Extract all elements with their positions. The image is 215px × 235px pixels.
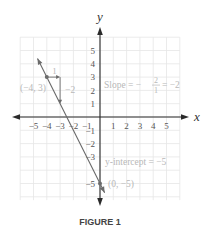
x-tick-label: 3 [138, 121, 143, 131]
point-label: (0, −5) [108, 179, 134, 190]
point-marker [98, 182, 102, 186]
x-axis-label: x [193, 109, 200, 124]
points: (−4, 3)(0, −5) [20, 75, 134, 189]
x-tick-label: 2 [124, 121, 129, 131]
y-axis-label: y [95, 9, 103, 24]
x-axis-arrow-left [12, 114, 20, 120]
point-label: (−4, 3) [20, 83, 46, 94]
y-tick-label: 1 [91, 99, 96, 109]
y-tick-label: −1 [85, 126, 95, 136]
y-tick-label: −2 [85, 139, 95, 149]
y-tick-label: 3 [91, 72, 96, 82]
y-axis-arrow-up [97, 27, 103, 35]
rise-label: −2 [65, 85, 75, 95]
y-intercept-annotation: y-intercept = −5 [105, 157, 167, 167]
slope-fraction-numerator: 2 [154, 76, 158, 85]
x-tick-label: 4 [151, 121, 156, 131]
y-tick-label: 4 [91, 59, 96, 69]
slope-annotation-prefix: Slope = − [104, 80, 141, 90]
x-tick-label: −3 [55, 121, 65, 131]
point-marker [45, 75, 49, 79]
x-axis-arrow-right [181, 114, 189, 120]
slope-fraction-denominator: 1 [154, 86, 158, 95]
axes: x y [12, 9, 200, 206]
x-tick-label: −5 [29, 121, 39, 131]
y-tick-label: −5 [85, 179, 95, 189]
slope-annotation-suffix: = −2 [162, 80, 180, 90]
figure-caption: FIGURE 1 [79, 217, 121, 227]
figure-canvas: x y −5−4−3−2−11234554321−1−2−3−5 1−2 (−4… [0, 0, 215, 235]
x-tick-label: 5 [164, 121, 169, 131]
y-tick-label: 2 [91, 86, 96, 96]
x-tick-label: −4 [42, 121, 52, 131]
x-tick-label: 1 [111, 121, 116, 131]
y-tick-label: 5 [91, 46, 96, 56]
run-label: 1 [52, 66, 57, 76]
y-axis-arrow-down [97, 198, 103, 206]
